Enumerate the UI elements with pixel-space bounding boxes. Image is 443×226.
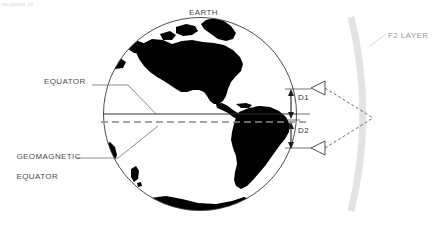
- propagation-group: [0, 0, 443, 226]
- geomagnetic-equator-label: GEOMAGNETIC EQUATOR: [6, 142, 81, 192]
- ray-path-upper: [325, 88, 373, 118]
- earth-label: EARTH: [189, 8, 218, 18]
- transequatorial-propagation-diagram: recipient of EARTH F2 LAYER EQUATOR GEOM…: [0, 0, 443, 226]
- d1-dimension-label: D1: [298, 93, 309, 103]
- dimension-arrow-d1: [288, 89, 294, 119]
- antenna-symbol-upper: [311, 81, 325, 95]
- geomagnetic-equator-label-line2: EQUATOR: [17, 172, 59, 181]
- geomagnetic-equator-label-line1: GEOMAGNETIC: [17, 152, 81, 161]
- d2-dimension-label: D2: [298, 126, 309, 136]
- clipped-caption-fragment: recipient of: [1, 0, 33, 9]
- antenna-symbol-lower: [311, 141, 325, 155]
- dimension-arrow-d2: [288, 122, 294, 149]
- equator-label: EQUATOR: [44, 77, 86, 87]
- f2-layer-label: F2 LAYER: [388, 31, 428, 41]
- ray-path-lower: [325, 118, 373, 148]
